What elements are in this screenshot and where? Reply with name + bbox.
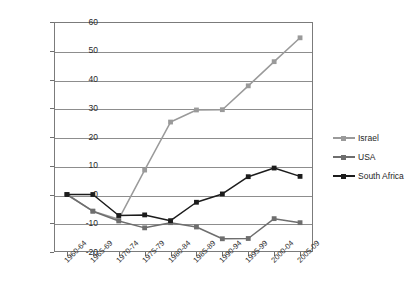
y-axis-tick-mark: [50, 166, 54, 167]
data-point-marker: [298, 174, 303, 179]
data-point-marker: [220, 236, 225, 241]
legend-marker-icon: [341, 155, 346, 160]
data-point-marker: [272, 59, 277, 64]
data-point-marker: [194, 108, 199, 113]
y-axis-tick-mark: [50, 223, 54, 224]
y-axis-tick-label: 50: [58, 46, 98, 55]
series-line-israel: [67, 38, 300, 219]
legend-item-south-africa[interactable]: South Africa: [333, 166, 404, 185]
data-point-marker: [246, 83, 251, 88]
legend-swatch-icon: [333, 171, 355, 180]
y-axis-tick-label: 20: [58, 133, 98, 142]
data-point-marker: [168, 218, 173, 223]
y-axis-tick-mark: [50, 22, 54, 23]
y-axis-tick-label: 10: [58, 161, 98, 170]
y-axis-tick-mark: [50, 195, 54, 196]
legend-marker-icon: [341, 136, 346, 141]
series-line-south-africa: [67, 168, 300, 221]
y-axis-tick-label: 40: [58, 75, 98, 84]
legend-swatch-icon: [333, 152, 355, 161]
legend-marker-icon: [341, 174, 346, 179]
y-axis-tick-label: 60: [58, 18, 98, 27]
data-point-marker: [298, 220, 303, 225]
data-point-marker: [246, 174, 251, 179]
data-point-marker: [142, 225, 147, 230]
data-point-marker: [168, 120, 173, 125]
y-axis-tick-mark: [50, 252, 54, 253]
y-axis-tick-label: 30: [58, 104, 98, 113]
data-point-marker: [246, 236, 251, 241]
legend-swatch-icon: [333, 133, 355, 142]
data-point-marker: [220, 192, 225, 197]
legend-label: South Africa: [358, 171, 404, 181]
data-point-marker: [272, 166, 277, 171]
y-axis-tick-label: 0: [58, 190, 98, 199]
legend-label: Israel: [358, 133, 379, 143]
data-point-marker: [116, 213, 121, 218]
chart-legend: IsraelUSASouth Africa: [333, 128, 404, 185]
data-point-marker: [220, 107, 225, 112]
legend-item-israel[interactable]: Israel: [333, 128, 404, 147]
legend-label: USA: [358, 152, 375, 162]
data-point-marker: [298, 35, 303, 40]
data-point-marker: [194, 225, 199, 230]
data-point-marker: [194, 200, 199, 205]
data-point-marker: [142, 213, 147, 218]
data-point-marker: [116, 219, 121, 224]
line-chart: 6050403020100-10-20 1960-641965-691970-7…: [0, 0, 417, 305]
data-point-marker: [272, 216, 277, 221]
y-axis-tick-mark: [50, 80, 54, 81]
y-axis-tick-mark: [50, 108, 54, 109]
data-point-marker: [90, 209, 95, 214]
legend-item-usa[interactable]: USA: [333, 147, 404, 166]
data-point-marker: [142, 168, 147, 173]
y-axis-tick-mark: [50, 137, 54, 138]
y-axis-tick-label: -10: [58, 219, 98, 228]
y-axis-tick-mark: [50, 51, 54, 52]
